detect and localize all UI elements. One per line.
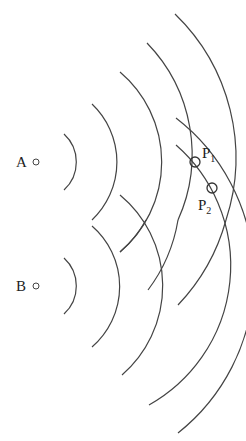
p1-subscript: 1 — [210, 153, 215, 164]
point-p1-label: P1 — [202, 146, 215, 161]
wavefront-a-3-lower — [120, 220, 146, 252]
interference-diagram: A B P1 P2 — [0, 0, 246, 441]
wavefront-a-2 — [92, 104, 117, 220]
wavefront-a-1 — [64, 134, 76, 190]
source-a-label: A — [16, 155, 27, 170]
wavefront-a-5-lower — [178, 220, 226, 305]
source-a-marker — [33, 159, 39, 165]
wavefront-b-2 — [92, 226, 120, 347]
wavefront-a-3 — [120, 72, 162, 252]
source-b-label: B — [16, 279, 26, 294]
wavefront-b-3 — [120, 195, 163, 375]
wavefront-b-1 — [64, 258, 76, 314]
wavefront-a-4 — [147, 43, 192, 220]
point-p2-label: P2 — [198, 198, 211, 213]
wavefront-a-5 — [175, 14, 236, 220]
wavefronts — [0, 0, 246, 441]
p2-subscript: 2 — [206, 205, 211, 216]
source-b-marker — [33, 283, 39, 289]
